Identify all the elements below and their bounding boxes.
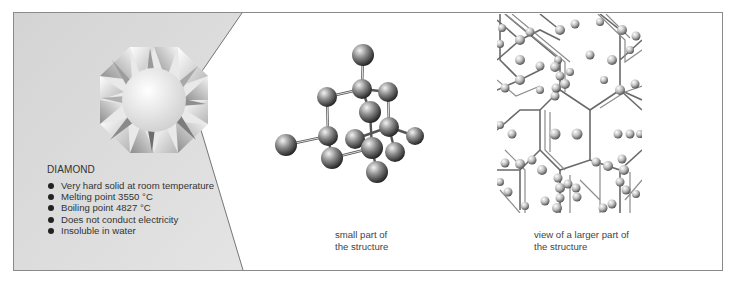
property-item: Boiling point 4827 °C bbox=[47, 202, 214, 213]
large-structure-caption: view of a larger part of the structure bbox=[534, 229, 629, 253]
diamond-gem-icon bbox=[100, 47, 208, 153]
bullet-icon bbox=[48, 194, 54, 200]
diamond-lattice-large-structure bbox=[496, 14, 644, 213]
property-item: Insoluble in water bbox=[47, 225, 214, 236]
diamond-properties-list: Very hard solid at room temperature Melt… bbox=[47, 180, 214, 236]
property-item: Does not conduct electricity bbox=[47, 214, 214, 225]
carbon-atoms-small-structure bbox=[275, 44, 424, 183]
property-item: Melting point 3550 °C bbox=[47, 191, 214, 202]
small-structure-caption: small part of the structure bbox=[335, 229, 388, 253]
bullet-icon bbox=[48, 183, 54, 189]
property-item: Very hard solid at room temperature bbox=[47, 180, 214, 191]
bullet-icon bbox=[48, 217, 54, 223]
bullet-icon bbox=[48, 205, 54, 211]
diamond-title: DIAMOND bbox=[47, 164, 95, 175]
bullet-icon bbox=[48, 228, 54, 234]
